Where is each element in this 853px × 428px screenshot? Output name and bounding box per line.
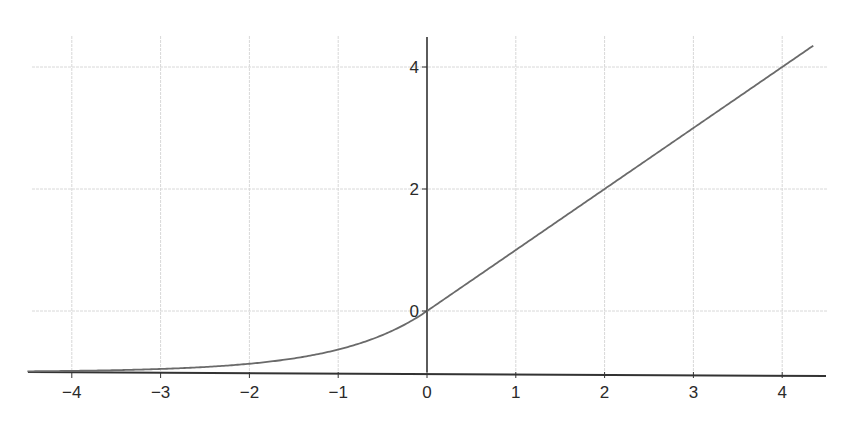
axes bbox=[28, 37, 826, 376]
x-tick-label: 1 bbox=[511, 383, 520, 402]
grid-lines bbox=[32, 36, 828, 372]
x-tick-labels: −4−3−2−101234 bbox=[62, 372, 787, 402]
y-tick-label: 0 bbox=[410, 302, 419, 321]
x-tick-label: −4 bbox=[62, 383, 81, 402]
elu-curve bbox=[27, 46, 813, 372]
y-tick-label: 4 bbox=[410, 58, 419, 77]
y-tick-label: 2 bbox=[410, 180, 419, 199]
x-tick-label: −1 bbox=[329, 383, 348, 402]
y-tick-labels: 024 bbox=[410, 58, 427, 321]
elu-line bbox=[27, 46, 813, 372]
elu-chart: −4−3−2−101234 024 bbox=[0, 0, 853, 428]
x-tick-label: 0 bbox=[422, 383, 431, 402]
x-tick-label: −3 bbox=[151, 383, 170, 402]
x-tick-label: 4 bbox=[777, 383, 786, 402]
x-tick-label: 3 bbox=[689, 383, 698, 402]
x-tick-label: −2 bbox=[240, 383, 259, 402]
x-tick-label: 2 bbox=[600, 383, 609, 402]
